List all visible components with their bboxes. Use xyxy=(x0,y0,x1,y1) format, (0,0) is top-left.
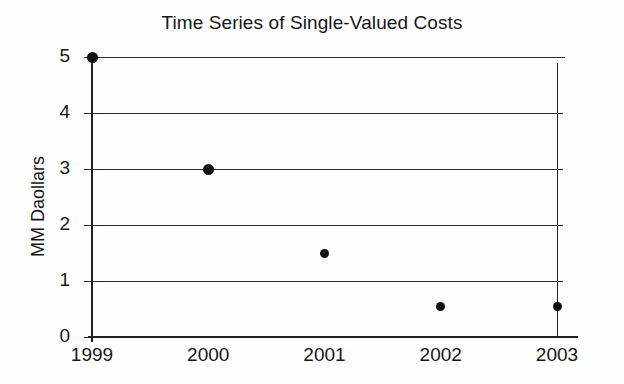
y-axis-tick-label: 3 xyxy=(24,157,70,179)
y-axis-tick-label: 5 xyxy=(24,45,70,67)
chart-title: Time Series of Single-Valued Costs xyxy=(0,12,624,34)
y-axis-tick-label: 1 xyxy=(24,269,70,291)
x-axis-tick-label: 1999 xyxy=(47,344,137,366)
gridline xyxy=(92,57,565,58)
x-axis-tick-label: 2001 xyxy=(280,344,370,366)
y-axis-line xyxy=(91,52,93,342)
y-axis-tick-label: 4 xyxy=(24,101,70,123)
x-axis-tick-label: 2002 xyxy=(396,344,486,366)
gridline xyxy=(92,113,563,114)
data-point xyxy=(553,302,562,311)
data-point xyxy=(436,302,445,311)
y-axis-title: MM Daollars xyxy=(28,127,49,287)
vertical-range-line xyxy=(557,63,558,337)
y-axis-tick-label: 2 xyxy=(24,213,70,235)
data-point xyxy=(87,52,98,63)
x-axis-line xyxy=(88,336,578,338)
gridline xyxy=(92,281,563,282)
data-point xyxy=(203,164,214,175)
x-axis-tick-label: 2003 xyxy=(512,344,602,366)
gridline xyxy=(92,225,563,226)
chart-figure: Time Series of Single-Valued Costs MM Da… xyxy=(0,0,624,384)
x-axis-tick-label: 2000 xyxy=(163,344,253,366)
gridline xyxy=(92,169,563,170)
data-point xyxy=(320,249,329,258)
